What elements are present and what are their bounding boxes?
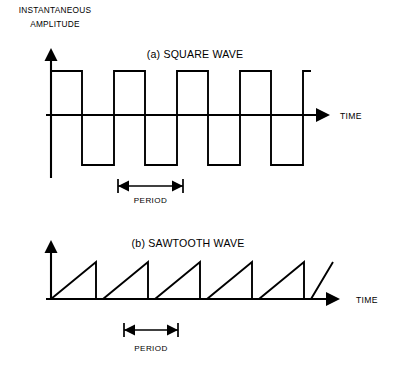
sawtooth-period-marker: PERIOD <box>124 323 178 353</box>
sawtooth-period-right-arrow-icon <box>167 325 178 336</box>
sawtooth-wave-trace <box>51 262 333 299</box>
square-wave-trace <box>51 71 311 165</box>
square-period-marker: PERIOD <box>118 179 183 205</box>
panel-sawtooth-wave: (b) SAWTOOTH WAVE TIME PERIOD <box>45 237 378 353</box>
square-time-axis-arrow-icon <box>316 108 330 122</box>
square-amplitude-axis-arrow-icon <box>45 48 58 61</box>
panel-title-sawtooth-wave: (b) SAWTOOTH WAVE <box>132 237 245 249</box>
square-time-axis-label: TIME <box>340 111 362 121</box>
y-axis-title-line2: AMPLITUDE <box>30 19 80 29</box>
sawtooth-time-axis-arrow-icon <box>326 292 340 306</box>
sawtooth-amplitude-axis-arrow-icon <box>45 240 58 253</box>
sawtooth-period-label: PERIOD <box>134 344 167 353</box>
panel-square-wave: (a) SQUARE WAVE TIME PERIOD <box>45 48 362 205</box>
square-period-right-arrow-icon <box>172 181 183 192</box>
waveform-diagram: INSTANTANEOUS AMPLITUDE (a) SQUARE WAVE … <box>0 0 404 372</box>
sawtooth-time-axis-label: TIME <box>356 295 378 305</box>
panel-title-square-wave: (a) SQUARE WAVE <box>147 48 244 60</box>
square-period-left-arrow-icon <box>118 181 129 192</box>
figure-canvas: INSTANTANEOUS AMPLITUDE (a) SQUARE WAVE … <box>0 0 404 372</box>
square-period-label: PERIOD <box>134 196 167 205</box>
sawtooth-period-left-arrow-icon <box>124 325 135 336</box>
y-axis-title-line1: INSTANTANEOUS <box>19 5 92 15</box>
